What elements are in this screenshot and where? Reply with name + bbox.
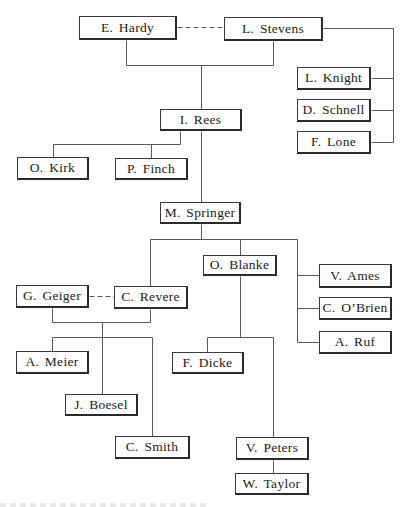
org-chart: E. HardyL. StevensL. KnightD. SchnellF. …	[0, 0, 410, 507]
org-node-label: L. Knight	[305, 70, 362, 86]
org-node-stevens: L. Stevens	[224, 17, 323, 41]
connector-pair2-join	[53, 309, 151, 323]
org-node-label: O. Blanke	[210, 257, 269, 273]
org-node-label: D. Schnell	[303, 102, 365, 118]
org-node-kirk: O. Kirk	[17, 157, 89, 180]
org-node-label: O. Kirk	[30, 160, 75, 176]
org-node-label: C. Revere	[121, 289, 180, 305]
org-node-smith: C. Smith	[115, 436, 190, 459]
org-node-schnell: D. Schnell	[297, 99, 371, 122]
org-node-boesel: J. Boesel	[65, 394, 138, 416]
org-node-knight: L. Knight	[297, 67, 371, 90]
org-node-label: F. Dicke	[183, 355, 233, 371]
org-node-revere: C. Revere	[114, 286, 188, 309]
org-node-label: W. Taylor	[243, 476, 301, 492]
org-node-lone: F. Lone	[297, 131, 371, 154]
org-node-dicke: F. Dicke	[172, 352, 244, 374]
org-node-blanke: O. Blanke	[203, 255, 277, 276]
org-node-ames: V. Ames	[319, 264, 392, 288]
org-node-label: A. Ruf	[335, 334, 376, 350]
org-node-label: F. Lone	[311, 134, 356, 150]
org-node-geiger: G. Geiger	[16, 285, 89, 308]
clipped-caption-line	[0, 503, 210, 507]
org-node-obrien: C. O’Brien	[319, 297, 392, 320]
org-node-peters: V. Peters	[236, 437, 309, 460]
org-node-taylor: W. Taylor	[235, 473, 309, 495]
org-node-rees: I. Rees	[160, 109, 242, 131]
org-node-label: P. Finch	[127, 161, 175, 177]
org-node-label: I. Rees	[180, 112, 222, 128]
org-node-label: V. Peters	[246, 440, 298, 456]
org-node-finch: P. Finch	[115, 158, 188, 180]
org-node-label: A. Meier	[25, 354, 78, 370]
org-node-ruf: A. Ruf	[319, 331, 392, 354]
org-node-label: V. Ames	[330, 268, 380, 284]
org-node-label: C. Smith	[126, 439, 178, 455]
org-node-meier: A. Meier	[16, 351, 89, 374]
org-node-springer: M. Springer	[160, 202, 241, 224]
org-node-label: L. Stevens	[242, 21, 304, 37]
connector-hardy-down	[127, 41, 274, 66]
org-node-label: M. Springer	[165, 205, 236, 221]
connector-rees-left	[54, 132, 181, 158]
org-node-hardy: E. Hardy	[79, 16, 177, 40]
org-node-label: C. O’Brien	[323, 300, 388, 316]
org-node-label: J. Boesel	[74, 397, 127, 413]
org-node-label: E. Hardy	[101, 20, 154, 36]
org-node-label: G. Geiger	[23, 288, 81, 304]
